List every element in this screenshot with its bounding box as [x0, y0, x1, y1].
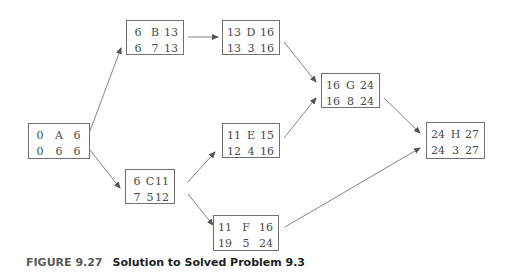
node-f-ef: 16: [258, 221, 274, 234]
node-e-label: E: [244, 129, 258, 142]
node-h: 24H27 24327: [426, 122, 485, 159]
edge-a-c: [90, 150, 120, 188]
node-h-ls: 24: [431, 144, 445, 157]
node-b-lf: 13: [163, 42, 179, 55]
node-a-lf: 6: [69, 145, 85, 158]
node-d-lf: 16: [259, 42, 275, 55]
node-e-lf: 16: [259, 145, 275, 158]
node-b-ef: 13: [163, 26, 179, 39]
node-a-label: A: [52, 129, 66, 142]
node-d-ef: 16: [259, 26, 275, 39]
node-d-slack: 3: [244, 42, 258, 55]
node-c-lf: 12: [154, 191, 170, 204]
node-d: 13D16 13316: [222, 20, 280, 55]
node-c-ef: 11: [154, 175, 170, 188]
node-h-label: H: [449, 128, 463, 141]
node-d-es: 13: [227, 26, 241, 39]
node-e-slack: 4: [244, 145, 258, 158]
edge-f-h: [285, 148, 420, 227]
node-e: 11E15 12416: [222, 123, 280, 158]
node-a-ls: 0: [33, 145, 47, 158]
edge-a-b: [90, 48, 121, 131]
node-e-es: 11: [227, 129, 241, 142]
node-c-ls: 7: [130, 191, 144, 204]
node-e-ls: 12: [227, 145, 241, 158]
node-d-ls: 13: [227, 42, 241, 55]
node-b-slack: 7: [148, 42, 162, 55]
node-h-ef: 27: [464, 128, 480, 141]
node-g-es: 16: [326, 79, 340, 92]
node-g-label: G: [344, 79, 358, 92]
node-g-ls: 16: [326, 95, 340, 108]
node-f-slack: 5: [239, 237, 253, 250]
node-h-slack: 3: [449, 144, 463, 157]
node-b-ls: 6: [131, 42, 145, 55]
node-b-es: 6: [131, 26, 145, 39]
node-g-ef: 24: [359, 79, 375, 92]
node-a-es: 0: [33, 129, 47, 142]
edge-e-g: [284, 98, 316, 138]
node-f-es: 11: [218, 221, 232, 234]
node-f-label: F: [239, 221, 253, 234]
node-a-ef: 6: [69, 129, 85, 142]
edge-d-g: [284, 42, 316, 82]
node-h-lf: 27: [464, 144, 480, 157]
node-g-lf: 24: [359, 95, 375, 108]
node-h-es: 24: [431, 128, 445, 141]
figure-title: Solution to Solved Problem 9.3: [113, 256, 305, 269]
node-c-es: 6: [130, 175, 144, 188]
edge-c-e: [188, 152, 215, 182]
node-f-ls: 19: [218, 237, 232, 250]
node-g-slack: 8: [344, 95, 358, 108]
figure-label: FIGURE 9.27: [26, 256, 103, 269]
node-b: 6B13 6713: [126, 20, 184, 55]
node-g: 16G24 16824: [321, 73, 380, 108]
figure-caption: FIGURE 9.27Solution to Solved Problem 9.…: [26, 256, 305, 269]
node-b-label: B: [148, 26, 162, 39]
edge-g-h: [384, 98, 420, 133]
edge-c-f: [188, 194, 213, 225]
node-f: 11F16 19524: [213, 215, 279, 251]
node-e-ef: 15: [259, 129, 275, 142]
node-c: 6C11 7512: [125, 169, 175, 204]
node-a: 0A6 066: [28, 123, 90, 159]
node-a-slack: 6: [52, 145, 66, 158]
node-d-label: D: [244, 26, 258, 39]
node-f-lf: 24: [258, 237, 274, 250]
